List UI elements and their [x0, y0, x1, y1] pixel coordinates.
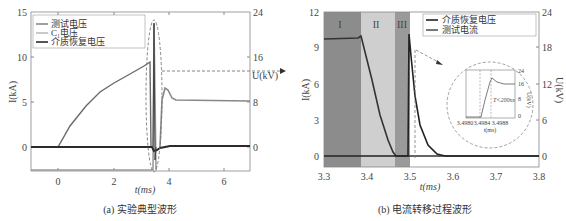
x-tick: 3.6	[447, 171, 460, 182]
y-left-tick: 0	[22, 142, 27, 153]
svg-text:0: 0	[518, 113, 521, 119]
y-left-tick: 6	[314, 79, 319, 90]
inset-x-label: t(ms)	[484, 127, 497, 134]
svg-text:3.4988: 3.4988	[492, 120, 509, 126]
y-left-tick: 0	[314, 151, 319, 162]
inset-y-label: U(kV)	[525, 92, 532, 108]
x-tick: 3.8	[533, 171, 546, 182]
y-right-tick: 0	[253, 142, 258, 153]
y-right-tick: 8	[253, 97, 258, 108]
x-tick: 4	[167, 176, 172, 187]
svg-text:3.4984: 3.4984	[474, 120, 491, 126]
y-left-label-a: I(kA)	[7, 81, 19, 103]
panel-a: 15 10 5 0 24 16 8 0 0 2 4 6	[7, 7, 286, 216]
y-right-ticks-b: 24 18 12 6 0	[536, 7, 552, 162]
figure: 15 10 5 0 24 16 8 0 0 2 4 6	[0, 0, 566, 221]
x-label-a: t(ms)	[135, 184, 156, 196]
legend-a: 测试电压 C₁电压 介质恢复电压	[33, 15, 145, 48]
x-tick: 3.4	[361, 171, 374, 182]
x-tick: 3.3	[318, 171, 331, 182]
legend-item: 介质恢复电压	[442, 14, 496, 25]
panel-b: I II III 12 9 6 3 0 24 18 12 6 0 3.3 3.4…	[300, 7, 565, 216]
svg-text:16: 16	[518, 81, 524, 87]
x-tick: 6	[222, 176, 227, 187]
y-left-tick: 3	[314, 115, 319, 126]
y-right-tick: 16	[253, 52, 263, 63]
legend-b: 介质恢复电压 测试电流	[423, 14, 536, 36]
y-left-label-b: I(kA)	[300, 79, 312, 101]
x-tick: 2	[112, 176, 117, 187]
arrow-head-icon	[280, 68, 286, 74]
y-right-tick: 0	[542, 151, 547, 162]
y-right-tick: 24	[253, 7, 263, 18]
y-left-tick: 5	[22, 97, 27, 108]
legend-item: 测试电流	[442, 24, 478, 35]
y-left-tick: 15	[17, 7, 27, 18]
legend-item: 介质恢复电压	[51, 36, 105, 47]
y-left-tick: 12	[309, 7, 319, 18]
caption-b: (b) 电流转移过程波形	[378, 203, 472, 216]
region-label: I	[338, 19, 341, 30]
zoom-arrow-icon	[436, 60, 443, 65]
zoom-arrow-line	[416, 50, 440, 63]
region-label: III	[397, 19, 407, 30]
region-i	[324, 12, 361, 167]
x-tick: 3.7	[490, 171, 503, 182]
y-right-tick: 6	[542, 115, 547, 126]
svg-text:8: 8	[518, 96, 521, 102]
x-tick: 3.5	[404, 171, 417, 182]
y-right-tick: 12	[542, 79, 552, 90]
region-label: II	[373, 19, 380, 30]
x-label-b: t(ms)	[420, 181, 441, 193]
y-right-label-a: U(kV)	[252, 70, 278, 82]
x-tick: 0	[56, 176, 61, 187]
y-left-tick: 10	[17, 52, 27, 63]
svg-text:24: 24	[518, 68, 524, 74]
y-left-tick: 9	[314, 42, 319, 53]
y-right-tick: 24	[542, 7, 552, 18]
inset-annotation: T<200ns	[493, 97, 515, 103]
y-right-label-b: U(kV)	[553, 77, 565, 103]
y-right-tick: 18	[542, 42, 552, 53]
caption-a: (a) 实验典型波形	[103, 203, 177, 216]
svg-text:3.4980: 3.4980	[457, 120, 474, 126]
